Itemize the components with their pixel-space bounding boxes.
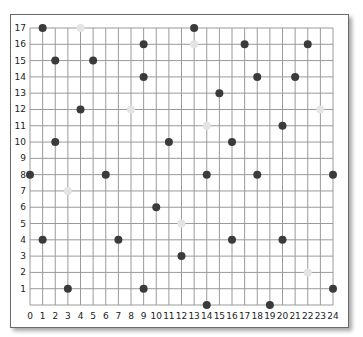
data-point — [140, 40, 148, 48]
y-tick-label: 15 — [15, 56, 26, 66]
x-tick-label: 11 — [163, 311, 174, 321]
y-tick-label: 4 — [20, 235, 26, 245]
data-point — [77, 105, 85, 113]
grid-lines — [30, 28, 333, 305]
data-point — [190, 24, 198, 32]
y-tick-label: 3 — [20, 251, 26, 261]
data-point — [39, 24, 47, 32]
faint-data-point — [304, 268, 312, 276]
data-point — [203, 301, 211, 309]
x-tick-label: 9 — [141, 311, 147, 321]
y-tick-label: 11 — [15, 121, 26, 131]
x-tick-label: 18 — [252, 311, 264, 321]
data-point — [140, 73, 148, 81]
faint-data-point — [77, 24, 85, 32]
x-tick-label: 20 — [277, 311, 289, 321]
x-tick-label: 21 — [289, 311, 300, 321]
x-tick-label: 12 — [176, 311, 187, 321]
x-tick-label: 19 — [264, 311, 276, 321]
data-point — [279, 236, 287, 244]
faint-data-point — [127, 105, 135, 113]
data-point — [253, 73, 261, 81]
y-tick-label: 9 — [20, 153, 26, 163]
x-tick-label: 0 — [27, 311, 33, 321]
y-tick-label: 7 — [20, 186, 26, 196]
data-point — [279, 122, 287, 130]
x-tick-label: 10 — [151, 311, 163, 321]
x-tick-label: 6 — [103, 311, 109, 321]
faint-data-point — [64, 187, 72, 195]
data-point — [228, 138, 236, 146]
y-tick-label: 2 — [20, 267, 26, 277]
data-point — [241, 40, 249, 48]
x-tick-label: 2 — [52, 311, 58, 321]
y-tick-label: 17 — [15, 23, 26, 33]
data-point — [266, 301, 274, 309]
x-tick-label: 24 — [327, 311, 339, 321]
x-tick-label: 14 — [201, 311, 213, 321]
data-point — [102, 171, 110, 179]
y-tick-label: 13 — [15, 88, 26, 98]
faint-data-point — [190, 40, 198, 48]
data-point — [291, 73, 299, 81]
data-point — [140, 285, 148, 293]
x-tick-label: 7 — [116, 311, 122, 321]
data-point — [304, 40, 312, 48]
data-point — [152, 203, 160, 211]
data-point — [114, 236, 122, 244]
data-point — [329, 171, 337, 179]
y-tick-label: 1 — [20, 284, 26, 294]
y-tick-label: 6 — [20, 202, 26, 212]
y-tick-label: 12 — [15, 104, 26, 114]
x-tick-label: 15 — [214, 311, 225, 321]
data-point — [51, 57, 59, 65]
data-point — [203, 171, 211, 179]
data-point — [253, 171, 261, 179]
data-point — [178, 252, 186, 260]
faint-data-point — [316, 105, 324, 113]
y-tick-label: 5 — [20, 219, 26, 229]
x-axis-ticks: 0123456789101112131415161718192021222324 — [27, 311, 339, 321]
data-point — [39, 236, 47, 244]
x-tick-label: 4 — [78, 311, 84, 321]
x-tick-label: 16 — [226, 311, 238, 321]
data-point — [51, 138, 59, 146]
y-tick-label: 8 — [20, 170, 26, 180]
x-tick-label: 1 — [40, 311, 46, 321]
y-tick-label: 14 — [15, 72, 27, 82]
data-point — [215, 89, 223, 97]
x-tick-label: 3 — [65, 311, 71, 321]
faint-data-point — [203, 122, 211, 130]
x-tick-label: 5 — [90, 311, 96, 321]
data-point — [89, 57, 97, 65]
y-axis-ticks: 1234567891011121314151617 — [15, 23, 27, 294]
x-tick-label: 13 — [188, 311, 199, 321]
scatter-plot: 0123456789101112131415161718192021222324… — [0, 0, 363, 337]
data-point — [26, 171, 34, 179]
x-tick-label: 17 — [239, 311, 250, 321]
faint-data-point — [178, 220, 186, 228]
x-tick-label: 23 — [315, 311, 326, 321]
x-tick-label: 8 — [128, 311, 134, 321]
data-point — [64, 285, 72, 293]
y-tick-label: 10 — [15, 137, 27, 147]
data-point — [228, 236, 236, 244]
data-point — [329, 285, 337, 293]
x-tick-label: 22 — [302, 311, 313, 321]
y-tick-label: 16 — [15, 39, 27, 49]
data-point — [165, 138, 173, 146]
